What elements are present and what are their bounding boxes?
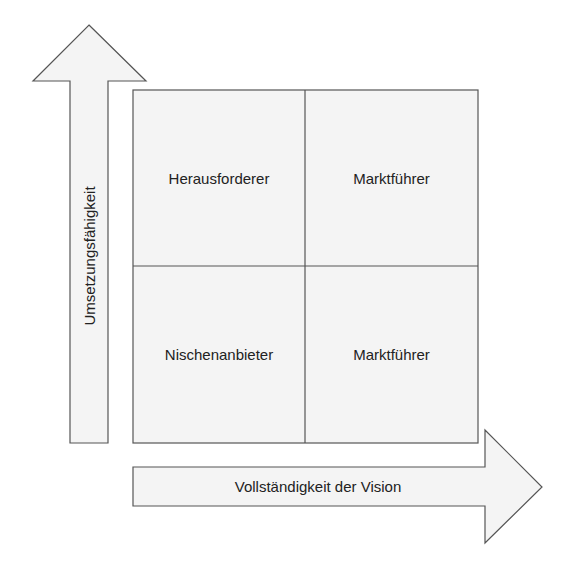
quadrant-label-leaders-bottom: Marktführer xyxy=(353,346,430,363)
quadrant-label-leaders-top: Marktführer xyxy=(353,170,430,187)
quadrant-label-challengers: Herausforderer xyxy=(169,170,270,187)
quadrant-diagram: Herausforderer Marktführer Nischenanbiet… xyxy=(0,0,577,573)
quadrant-bottom-left: Nischenanbieter xyxy=(133,266,305,443)
quadrant-top-left: Herausforderer xyxy=(133,90,305,266)
quadrant-bottom-right: Marktführer xyxy=(305,266,478,443)
quadrant-label-niche-players: Nischenanbieter xyxy=(165,346,273,363)
quadrant-top-right: Marktführer xyxy=(305,90,478,266)
y-axis-label: Umsetzungsfähigkeit xyxy=(81,186,98,325)
x-axis-label: Vollständigkeit der Vision xyxy=(235,478,402,495)
